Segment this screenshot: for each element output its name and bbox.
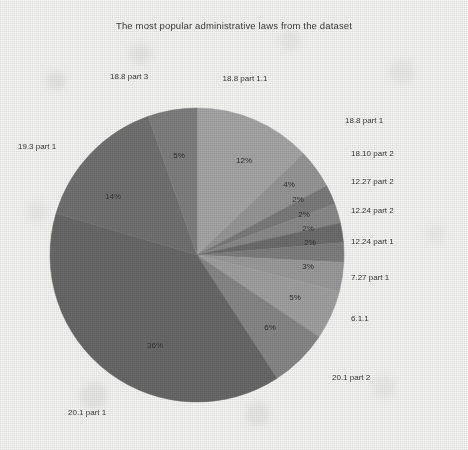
pie-slice-label: 20.1 part 1 (68, 408, 106, 417)
pie-slice-percentage: 6% (264, 323, 276, 332)
pie-slice-percentage: 3% (302, 262, 314, 271)
pie-slice-label: 6.1.1 (351, 314, 369, 323)
pie-slice-percentage: 36% (147, 341, 163, 350)
pie-slice-percentage: 2% (292, 195, 304, 204)
pie-slice-label: 12.24 part 1 (351, 237, 394, 246)
pie-slice-group (50, 108, 344, 402)
pie-slice-label: 7.27 part 1 (351, 273, 389, 282)
pie-slice-label: 18.8 part 1.1 (223, 74, 268, 83)
pie-slice-label: 18.8 part 1 (345, 116, 383, 125)
pie-slice-percentage: 2% (302, 224, 314, 233)
pie-slice-label: 12.24 part 2 (351, 206, 394, 215)
pie-slice-percentage: 2% (304, 238, 316, 247)
pie-slice-label: 18.10 part 2 (351, 149, 394, 158)
pie-chart: 12%4%2%2%2%2%3%5%6%36%14%5% 18.8 part 1.… (0, 0, 468, 450)
pie-slice-label: 12.27 part 2 (351, 177, 394, 186)
pie-slice-label: 19.3 part 1 (18, 142, 56, 151)
pie-slice-percentage: 4% (283, 180, 295, 189)
pie-slice-percentage: 5% (173, 151, 185, 160)
pie-slice-percentage: 14% (105, 192, 121, 201)
pie-slice-percentage: 5% (289, 293, 301, 302)
chart-page: The most popular administrative laws fro… (0, 0, 468, 450)
pie-slice-percentage: 12% (236, 156, 252, 165)
pie-slice-label: 20.1 part 2 (332, 373, 370, 382)
pie-chart-svg (0, 0, 468, 450)
pie-slice-percentage: 2% (298, 210, 310, 219)
pie-slice-label: 18.8 part 3 (110, 72, 148, 81)
